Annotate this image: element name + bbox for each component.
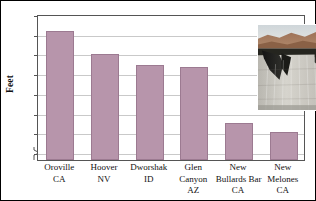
category-label-line: Bullards Bar <box>216 174 261 186</box>
category-label-line: ID <box>126 174 171 186</box>
x-axis-category-labels: OrovilleCAHooverNVDworshakIDGlenCanyonAZ… <box>37 162 305 201</box>
dam-photograph <box>257 24 316 111</box>
category-label-line: CA <box>260 185 305 197</box>
chart-figure: Feet 600625650675700725750775 <box>0 0 316 201</box>
category-label-line: New <box>216 162 261 174</box>
bar <box>225 123 253 160</box>
x-axis-category-label: DworshakID <box>126 162 171 185</box>
category-label-line: New <box>260 162 305 174</box>
category-label-line: Glen <box>171 162 216 174</box>
category-label-line: Dworshak <box>126 162 171 174</box>
dam-photo-image <box>258 25 316 110</box>
category-label-line: CA <box>37 174 82 186</box>
x-axis-category-label: OrovilleCA <box>37 162 82 185</box>
bar <box>180 67 208 160</box>
y-axis-title: Feet <box>5 54 15 114</box>
category-label-line: NV <box>82 174 127 186</box>
category-label-line: Oroville <box>37 162 82 174</box>
category-label-line: Melones <box>260 174 305 186</box>
bar <box>136 65 164 160</box>
plot-area: 600625650675700725750775 <box>37 15 305 161</box>
x-axis-category-label: HooverNV <box>82 162 127 185</box>
bar <box>270 132 298 160</box>
category-label-line: Canyon <box>171 174 216 186</box>
category-label-line: Hoover <box>82 162 127 174</box>
x-axis-category-label: NewBullards BarCA <box>216 162 261 197</box>
bar <box>46 31 74 160</box>
category-label-line: AZ <box>171 185 216 197</box>
category-label-line: CA <box>216 185 261 197</box>
x-axis-category-label: NewMelonesCA <box>260 162 305 197</box>
x-axis-category-label: GlenCanyonAZ <box>171 162 216 197</box>
bar <box>91 54 119 160</box>
